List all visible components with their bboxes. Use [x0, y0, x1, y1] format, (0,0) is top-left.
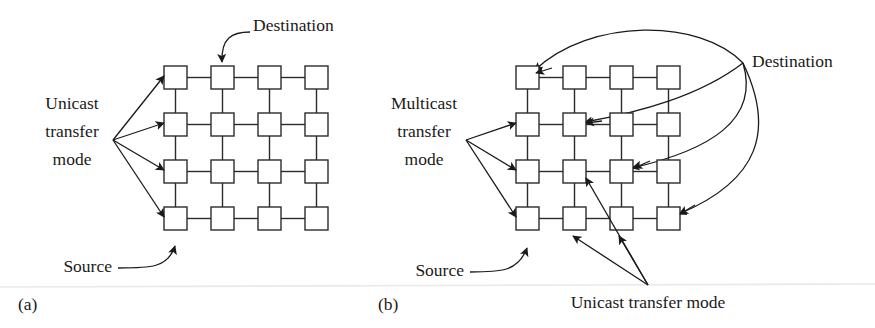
multicast-mode-label-line2: transfer — [397, 121, 451, 141]
node-r0c3 — [657, 66, 680, 89]
panel-b-destination-arrowheads — [536, 68, 695, 214]
scan-rule — [0, 284, 875, 287]
node-r1c3 — [657, 113, 680, 136]
panel-b-multicast-fan — [466, 123, 516, 217]
node-r0c1 — [211, 66, 234, 89]
node-r3c1 — [211, 207, 234, 230]
network-transfer-mode-diagram: Destination Unicast transfer mode Source… — [0, 0, 875, 328]
source-label-b: Source — [415, 260, 464, 280]
node-r0c2 — [258, 66, 281, 89]
node-r1c0 — [516, 113, 539, 136]
destination-label-a: Destination — [253, 15, 334, 35]
node-r2c0 — [516, 160, 539, 183]
unicast-mode-label-a-line3: mode — [53, 149, 92, 169]
node-r3c3 — [657, 207, 680, 230]
unicast-mode-label-a-line1: Unicast — [45, 93, 99, 113]
figure-root: Destination Unicast transfer mode Source… — [0, 0, 875, 328]
source-label-a: Source — [63, 256, 112, 276]
unicast-mode-label-a-line2: transfer — [45, 121, 99, 141]
panel-b-nodes — [516, 66, 680, 230]
node-r1c3 — [305, 113, 328, 136]
panel-a: Destination Unicast transfer mode Source… — [18, 15, 334, 314]
node-r2c2 — [258, 160, 281, 183]
node-r2c1 — [563, 160, 586, 183]
node-r2c2 — [610, 160, 633, 183]
node-r2c0 — [164, 160, 187, 183]
caption-a: (a) — [18, 294, 38, 314]
node-r1c0 — [164, 113, 187, 136]
panel-a-destination-leader — [222, 32, 250, 62]
node-r0c3 — [305, 66, 328, 89]
panel-a-source-leader — [118, 246, 175, 268]
panel-b-source-leader — [470, 248, 527, 272]
node-r2c3 — [305, 160, 328, 183]
node-r1c2 — [610, 113, 633, 136]
node-r3c0 — [516, 207, 539, 230]
panel-b-unicast-fan — [573, 178, 648, 285]
node-r3c0 — [164, 207, 187, 230]
node-r0c1 — [563, 66, 586, 89]
multicast-mode-label-line1: Multicast — [391, 93, 457, 113]
node-r2c1 — [211, 160, 234, 183]
node-r0c2 — [610, 66, 633, 89]
panel-b-grid-links — [528, 78, 669, 219]
destination-label-b: Destination — [752, 51, 833, 71]
node-r2c3 — [657, 160, 680, 183]
panel-a-nodes — [164, 66, 328, 230]
node-r3c1 — [563, 207, 586, 230]
node-r1c1 — [211, 113, 234, 136]
panel-b: Destination Multicast transfer mode Sour… — [378, 30, 833, 314]
multicast-mode-label-line3: mode — [405, 149, 444, 169]
node-r1c2 — [258, 113, 281, 136]
panel-a-grid-links — [176, 78, 317, 219]
node-r1c1 — [563, 113, 586, 136]
caption-b: (b) — [378, 294, 399, 314]
node-r0c0 — [516, 66, 539, 89]
unicast-transfer-mode-label-b: Unicast transfer mode — [571, 292, 726, 312]
node-r0c0 — [164, 66, 187, 89]
node-r3c3 — [305, 207, 328, 230]
panel-a-unicast-fan — [113, 76, 164, 217]
node-r3c2 — [258, 207, 281, 230]
